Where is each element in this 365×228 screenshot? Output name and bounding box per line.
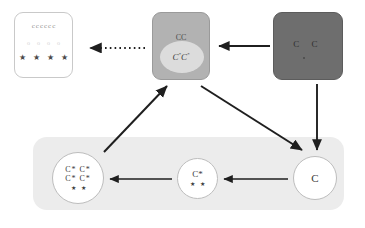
circle-left-line2: C* C* [65, 174, 91, 183]
c-glyph: c [40, 23, 43, 30]
gray-panel-ellipse-label: C*C* [153, 52, 209, 62]
circle-mid: C* ★ ★ [177, 158, 218, 199]
star-icon: ★ [19, 54, 26, 62]
dark-panel: C C [273, 12, 343, 80]
star-icon: ★ [61, 54, 68, 62]
circle-mid-line1: C* [192, 170, 203, 179]
circle-left-line1: C* C* [65, 165, 91, 174]
ellipse-sup2: * [187, 52, 190, 57]
star-icon: ★ [71, 185, 76, 191]
diagram-canvas: c c c c c c o o o o ★ ★ ★ ★ CC C*C* C C … [0, 0, 365, 228]
white-panel-c-row: c c c c c c [15, 23, 72, 30]
white-panel: c c c c c c o o o o ★ ★ ★ ★ [14, 12, 73, 78]
c-glyph: c [36, 23, 39, 30]
c-glyph: c [44, 23, 47, 30]
star-icon: ★ [81, 185, 86, 191]
star-icon: ★ [200, 181, 205, 187]
circle-left: C* C* C* C* ★ ★ [52, 152, 104, 204]
gray-panel: CC C*C* [152, 12, 210, 80]
faint-glyph: o [37, 40, 40, 46]
gray-panel-top-label: CC [153, 34, 209, 42]
star-icon: ★ [33, 54, 40, 62]
star-icon: ★ [47, 54, 54, 62]
circle-right: C [293, 156, 337, 200]
faint-glyph: o [57, 40, 60, 46]
circle-mid-stars: ★ ★ [190, 181, 205, 187]
faint-glyph: o [47, 40, 50, 46]
circle-right-line1: C [311, 173, 318, 184]
c-glyph: c [52, 23, 55, 30]
dark-panel-label: C C [274, 40, 342, 49]
white-panel-star-row: ★ ★ ★ ★ [15, 54, 72, 62]
white-panel-faint-row: o o o o [15, 40, 72, 46]
circle-left-stars: ★ ★ [71, 185, 86, 191]
c-glyph: c [32, 23, 35, 30]
dark-panel-dot [303, 57, 305, 59]
faint-glyph: o [27, 40, 30, 46]
c-glyph: c [48, 23, 51, 30]
star-icon: ★ [190, 181, 195, 187]
